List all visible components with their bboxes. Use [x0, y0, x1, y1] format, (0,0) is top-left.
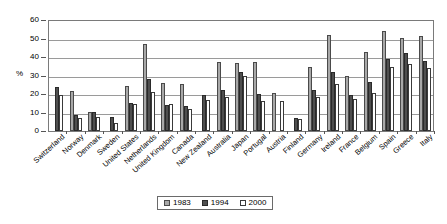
bar	[280, 101, 284, 131]
x-axis-tick-mark	[379, 131, 380, 134]
bar-group	[213, 20, 231, 131]
bar-group	[48, 20, 66, 131]
legend-label-1994: 1994	[211, 199, 229, 207]
bar	[298, 119, 302, 131]
x-axis-tick-mark	[232, 131, 233, 134]
x-axis-tick-mark	[360, 131, 361, 134]
x-axis-tick-label: Italy	[419, 133, 435, 148]
bar	[206, 100, 210, 131]
legend-swatch-1994-icon	[202, 200, 208, 206]
x-axis-tick-mark	[397, 131, 398, 134]
y-axis-tick-label: 10	[30, 109, 39, 117]
x-axis-labels: SwitzerlandNorwayDenmarkSwedenUnited Sta…	[48, 133, 434, 193]
bar	[261, 101, 265, 131]
chart-legend: 1983 1994 2000	[157, 196, 273, 210]
x-axis-tick-mark	[103, 131, 104, 134]
x-axis-tick-mark	[342, 131, 343, 134]
bar-group	[397, 20, 415, 131]
bar-group	[379, 20, 397, 131]
bar-group	[287, 20, 305, 131]
bar	[272, 93, 276, 131]
y-axis-tick-label: 50	[30, 35, 39, 43]
x-axis-tick-mark	[324, 131, 325, 134]
x-axis-tick-mark	[213, 131, 214, 134]
bar	[390, 67, 394, 131]
y-axis-tick-label: 60	[30, 16, 39, 24]
x-axis-tick-mark	[140, 131, 141, 134]
x-axis-tick-mark	[158, 131, 159, 134]
bar-group	[140, 20, 158, 131]
y-axis-tick-mark	[41, 94, 46, 95]
y-axis-title: %	[16, 70, 23, 78]
bar-group	[250, 20, 268, 131]
legend-swatch-1983-icon	[164, 200, 170, 206]
x-axis-tick-mark	[250, 131, 251, 134]
y-axis-tick-mark	[41, 131, 46, 132]
y-axis-tick-label: 0	[35, 127, 39, 135]
bar	[59, 95, 63, 131]
bar-group	[416, 20, 434, 131]
bar-group	[232, 20, 250, 131]
bars-layer	[48, 20, 434, 131]
x-axis-tick-mark	[177, 131, 178, 134]
x-axis-tick-mark	[269, 131, 270, 134]
bar	[188, 109, 192, 131]
bar	[316, 97, 320, 131]
y-axis-tick-mark	[41, 20, 46, 21]
y-axis-tick-label: 20	[30, 90, 39, 98]
legend-swatch-2000-icon	[240, 200, 246, 206]
bar	[78, 118, 82, 131]
bar	[353, 99, 357, 131]
bar-group	[305, 20, 323, 131]
y-axis-tick-mark	[41, 113, 46, 114]
legend-label-1983: 1983	[173, 199, 191, 207]
bar-group	[324, 20, 342, 131]
y-axis-tick-label: 40	[30, 53, 39, 61]
legend-item-1994[interactable]: 1994	[202, 199, 229, 207]
x-axis-tick-mark	[287, 131, 288, 134]
legend-item-2000[interactable]: 2000	[240, 199, 267, 207]
legend-label-2000: 2000	[249, 199, 267, 207]
x-axis-tick-mark	[122, 131, 123, 134]
bar	[427, 68, 431, 131]
y-axis-tick-mark	[41, 39, 46, 40]
y-axis: 0102030405060	[0, 0, 48, 152]
bar-group	[85, 20, 103, 131]
bar-group	[195, 20, 213, 131]
bar-group	[66, 20, 84, 131]
bar	[96, 117, 100, 131]
bar-chart: 0102030405060 % SwitzerlandNorwayDenmark…	[0, 0, 447, 224]
bar-group	[269, 20, 287, 131]
legend-item-1983[interactable]: 1983	[164, 199, 191, 207]
bar	[243, 76, 247, 132]
bar-group	[177, 20, 195, 131]
bar	[408, 64, 412, 131]
bar	[133, 104, 137, 131]
y-axis-tick-mark	[41, 76, 46, 77]
bar-group	[360, 20, 378, 131]
y-axis-tick-label: 30	[30, 72, 39, 80]
y-axis-tick-mark	[41, 57, 46, 58]
bar-group	[342, 20, 360, 131]
x-axis-tick-mark	[305, 131, 306, 134]
bar	[335, 84, 339, 131]
x-axis-tick-mark	[195, 131, 196, 134]
bar	[114, 123, 118, 131]
bar-group	[103, 20, 121, 131]
bar	[169, 104, 173, 131]
x-axis-tick-mark	[85, 131, 86, 134]
x-axis-tick-mark	[416, 131, 417, 134]
x-axis-tick-mark	[66, 131, 67, 134]
x-axis-tick-mark	[434, 131, 435, 134]
bar	[151, 92, 155, 131]
bar	[372, 93, 376, 131]
bar-group	[122, 20, 140, 131]
bar-group	[158, 20, 176, 131]
x-axis-tick-label: Ireland	[320, 133, 342, 154]
bar	[225, 97, 229, 131]
